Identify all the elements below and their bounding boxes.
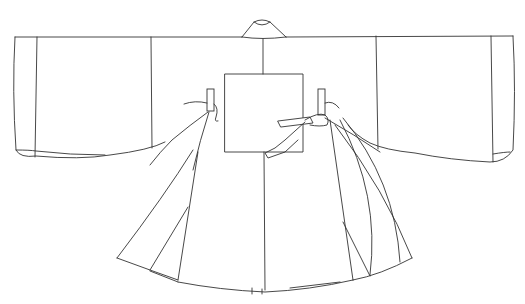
center-front-line bbox=[264, 152, 265, 290]
robe-drawing bbox=[0, 0, 525, 304]
right-side-panels bbox=[330, 118, 412, 280]
robe-illustration bbox=[0, 0, 525, 304]
right-sleeve bbox=[348, 36, 515, 162]
chest-patch bbox=[225, 74, 303, 152]
collar bbox=[242, 20, 286, 74]
hem bbox=[178, 280, 353, 294]
left-sleeve bbox=[14, 37, 165, 158]
shoulder-line bbox=[15, 36, 513, 37]
left-tie bbox=[150, 89, 218, 170]
right-tie bbox=[265, 89, 380, 158]
left-side-panels bbox=[117, 150, 198, 282]
